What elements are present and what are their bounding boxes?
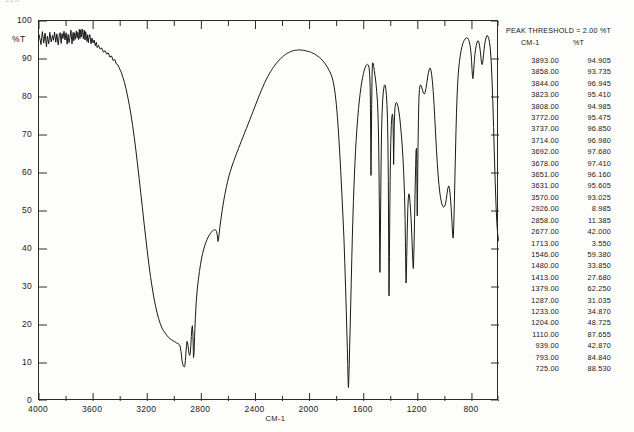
- peak-table-row: 3893.0094.905: [503, 55, 631, 66]
- peak-transmittance: 42.870: [567, 340, 611, 351]
- peak-transmittance: 93.735: [567, 66, 611, 77]
- peak-wavenumber: 939.00: [503, 340, 567, 351]
- peak-transmittance: 3.550: [567, 238, 611, 249]
- peak-table-row: 3844.0096.945: [503, 78, 631, 89]
- peak-transmittance: 93.025: [567, 192, 611, 203]
- x-tick-label: 4000: [18, 404, 58, 414]
- peak-wavenumber: 1413.00: [503, 272, 567, 283]
- peak-transmittance: 95.410: [567, 89, 611, 100]
- peak-table-row: 3808.0094.985: [503, 101, 631, 112]
- peak-table-row: 3692.0097.680: [503, 146, 631, 157]
- peak-wavenumber: 1110.00: [503, 329, 567, 340]
- peak-wavenumber: 3772.00: [503, 112, 567, 123]
- peak-table-header: CM-1 %T: [503, 39, 631, 47]
- peak-table-row: 939.0042.870: [503, 340, 631, 351]
- x-tick-label: 2800: [180, 404, 220, 414]
- peak-transmittance: 97.680: [567, 146, 611, 157]
- peak-table-rows: 3893.0094.9053858.0093.7353844.0096.9453…: [503, 55, 631, 374]
- x-axis-title: CM-1: [265, 414, 285, 423]
- peak-table-col-cm: CM-1: [521, 39, 573, 47]
- peak-wavenumber: 3844.00: [503, 78, 567, 89]
- peak-wavenumber: 3651.00: [503, 169, 567, 180]
- peak-wavenumber: 2677.00: [503, 226, 567, 237]
- peak-table: PEAK THRESHOLD = 2.00 %T CM-1 %T 3893.00…: [503, 27, 631, 374]
- axis-tick-layer: [39, 21, 499, 401]
- peak-transmittance: 59.380: [567, 249, 611, 260]
- peak-table-row: 2926.008.985: [503, 203, 631, 214]
- peak-wavenumber: 1713.00: [503, 238, 567, 249]
- peak-transmittance: 84.840: [567, 352, 611, 363]
- peak-wavenumber: 1287.00: [503, 295, 567, 306]
- peak-table-row: 1713.003.550: [503, 238, 631, 249]
- peak-transmittance: 94.985: [567, 101, 611, 112]
- peak-transmittance: 97.410: [567, 158, 611, 169]
- y-tick-label: 30: [6, 281, 32, 291]
- peak-transmittance: 27.680: [567, 272, 611, 283]
- peak-wavenumber: 1204.00: [503, 317, 567, 328]
- peak-table-row: 1379.0062.250: [503, 283, 631, 294]
- peak-table-row: 793.0084.840: [503, 352, 631, 363]
- x-tick-label: 2400: [234, 404, 274, 414]
- spectrum-plot: [39, 21, 499, 401]
- peak-threshold-label: PEAK THRESHOLD = 2.00 %T: [503, 27, 631, 35]
- peak-wavenumber: 1379.00: [503, 283, 567, 294]
- peak-wavenumber: 1480.00: [503, 260, 567, 271]
- peak-wavenumber: 3678.00: [503, 158, 567, 169]
- peak-table-row: 1413.0027.680: [503, 272, 631, 283]
- peak-wavenumber: 3893.00: [503, 55, 567, 66]
- peak-transmittance: 88.530: [567, 363, 611, 374]
- peak-wavenumber: 725.00: [503, 363, 567, 374]
- peak-table-row: 1233.0034.870: [503, 306, 631, 317]
- peak-table-row: 2858.0011.385: [503, 215, 631, 226]
- peak-transmittance: 87.655: [567, 329, 611, 340]
- x-tick-label: 3600: [72, 404, 112, 414]
- ir-spectrum-page: 120 1009080706050403020100 %T 4000360032…: [0, 0, 634, 432]
- y-tick-label: 10: [6, 357, 32, 367]
- peak-wavenumber: 3823.00: [503, 89, 567, 100]
- y-tick-label: 40: [6, 243, 32, 253]
- peak-table-row: 3714.0096.980: [503, 135, 631, 146]
- peak-wavenumber: 3858.00: [503, 66, 567, 77]
- y-tick-label: 70: [6, 129, 32, 139]
- spectrum-trace: [39, 29, 499, 388]
- peak-wavenumber: 793.00: [503, 352, 567, 363]
- peak-wavenumber: 3570.00: [503, 192, 567, 203]
- peak-table-row: 2677.0042.000: [503, 226, 631, 237]
- plot-frame: [38, 20, 498, 400]
- peak-transmittance: 62.250: [567, 283, 611, 294]
- y-tick-label: 60: [6, 167, 32, 177]
- peak-transmittance: 11.385: [567, 215, 611, 226]
- x-tick-label: 1600: [343, 404, 383, 414]
- peak-transmittance: 42.000: [567, 226, 611, 237]
- y-tick-label: 100: [6, 15, 32, 25]
- peak-table-row: 3651.0096.160: [503, 169, 631, 180]
- x-tick-label: 1200: [397, 404, 437, 414]
- peak-table-row: 3737.0096.850: [503, 123, 631, 134]
- x-tick-label: 3200: [126, 404, 166, 414]
- peak-table-row: 1204.0048.725: [503, 317, 631, 328]
- peak-transmittance: 48.725: [567, 317, 611, 328]
- peak-transmittance: 95.605: [567, 180, 611, 191]
- page-header-remnant: 120: [5, 0, 20, 4]
- peak-wavenumber: 3692.00: [503, 146, 567, 157]
- peak-transmittance: 8.985: [567, 203, 611, 214]
- peak-transmittance: 34.870: [567, 306, 611, 317]
- peak-wavenumber: 1233.00: [503, 306, 567, 317]
- peak-table-row: 1480.0033.850: [503, 260, 631, 271]
- peak-wavenumber: 2926.00: [503, 203, 567, 214]
- peak-transmittance: 31.035: [567, 295, 611, 306]
- peak-wavenumber: 3808.00: [503, 101, 567, 112]
- peak-table-row: 3823.0095.410: [503, 89, 631, 100]
- peak-wavenumber: 3714.00: [503, 135, 567, 146]
- peak-wavenumber: 2858.00: [503, 215, 567, 226]
- peak-table-row: 3570.0093.025: [503, 192, 631, 203]
- peak-table-row: 3631.0095.605: [503, 180, 631, 191]
- peak-transmittance: 96.980: [567, 135, 611, 146]
- x-tick-label: 2000: [289, 404, 329, 414]
- y-axis-title: %T: [12, 34, 26, 44]
- y-tick-label: 50: [6, 205, 32, 215]
- x-tick-label: 800: [451, 404, 491, 414]
- y-tick-label: 90: [6, 53, 32, 63]
- peak-transmittance: 96.850: [567, 123, 611, 134]
- peak-table-row: 3858.0093.735: [503, 66, 631, 77]
